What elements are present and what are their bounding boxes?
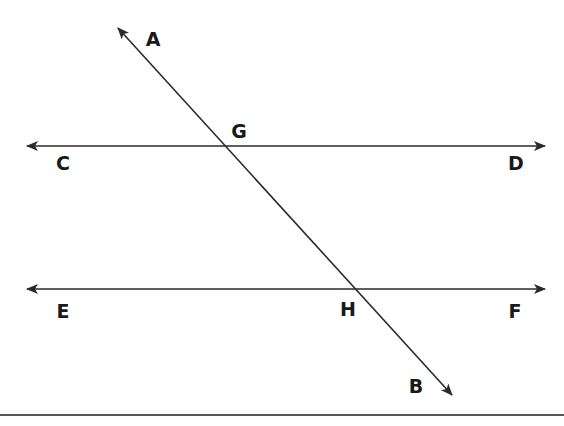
label-point-d: D [508,154,524,173]
label-point-b: B [409,377,423,396]
label-point-f: F [509,302,522,321]
label-point-a: A [146,30,161,49]
transversal-ab [118,28,452,395]
diagram-canvas [0,0,564,426]
label-point-e: E [57,302,70,321]
label-point-c: C [56,154,70,173]
bottom-divider-rule [0,414,564,416]
label-point-g: G [231,122,247,141]
label-point-h: H [340,300,356,319]
